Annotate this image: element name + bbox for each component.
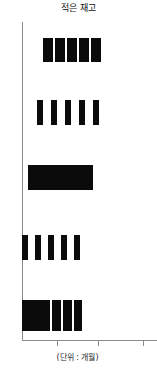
bar-segment bbox=[91, 38, 101, 62]
chart-title: 적은 재고 bbox=[0, 2, 157, 14]
x-axis-tick-1 bbox=[57, 341, 58, 346]
bar-segment bbox=[37, 100, 43, 125]
bar-segment bbox=[74, 235, 80, 260]
bar-segment bbox=[51, 100, 57, 125]
chart-container: 적은 재고 (단위 : 개월) bbox=[0, 0, 157, 373]
bar-segment bbox=[79, 100, 85, 125]
bar-segment bbox=[65, 100, 71, 125]
bar-segment bbox=[67, 38, 77, 62]
bar-segment bbox=[61, 235, 67, 260]
bar-segment bbox=[74, 300, 82, 331]
bar-segment bbox=[79, 38, 89, 62]
bar-segment bbox=[22, 300, 50, 331]
bar-segment bbox=[93, 100, 99, 125]
x-axis-tick-3 bbox=[143, 341, 144, 346]
bar-segment bbox=[22, 235, 28, 260]
x-axis-tick-2 bbox=[98, 341, 99, 346]
bar-segment bbox=[48, 235, 54, 260]
y-axis-line bbox=[22, 22, 23, 341]
bar-segment bbox=[52, 300, 61, 331]
x-axis-line bbox=[22, 340, 157, 341]
bar-segment bbox=[55, 38, 65, 62]
bar-segment bbox=[35, 235, 41, 260]
bar-segment bbox=[63, 300, 72, 331]
bar-segment bbox=[43, 38, 53, 62]
bar-segment bbox=[28, 165, 93, 190]
x-axis-label: (단위 : 개월) bbox=[0, 352, 155, 363]
